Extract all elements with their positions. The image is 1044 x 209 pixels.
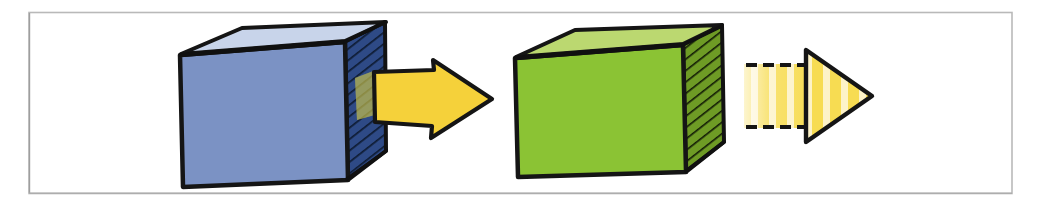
blue-cube-front-face [180,42,348,187]
green-cube [515,25,724,177]
diagram-canvas: Hand-drawn diagram: blue cube with solid… [0,0,1044,209]
green-cube-front-face [515,45,686,177]
blue-cube [180,22,386,187]
diagram-figure [0,0,1044,209]
